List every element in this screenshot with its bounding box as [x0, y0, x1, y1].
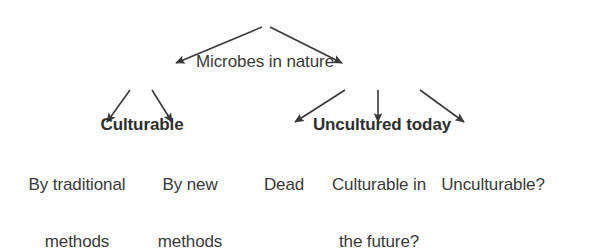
node-label-line: the future?: [84, 232, 590, 251]
node-label-line: Uncultured today: [87, 115, 590, 134]
node-label-line: Unculturable?: [198, 175, 590, 194]
node-unculturable: Unculturable?: [198, 137, 590, 232]
node-label-line: Microbes in nature: [0, 52, 560, 71]
